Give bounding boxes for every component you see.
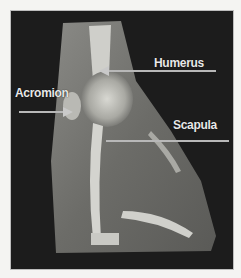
humeral-head — [81, 71, 133, 127]
humerus-label: Humerus — [154, 56, 204, 70]
base-highlight — [91, 233, 119, 245]
acromion-label: Acromion — [15, 86, 69, 100]
shoulder-volume-render — [11, 11, 234, 270]
scapula-label: Scapula — [173, 118, 217, 132]
anatomy-image-frame: Humerus Acromion Scapula — [10, 10, 234, 270]
